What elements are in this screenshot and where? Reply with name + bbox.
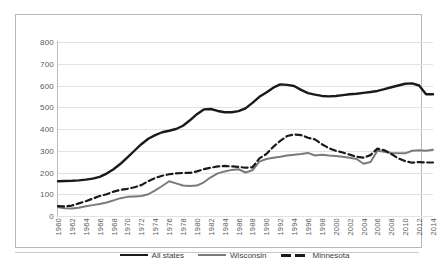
x-tick-label: 2002	[346, 218, 355, 236]
x-tick-label: 2000	[332, 218, 341, 236]
y-tick-label: 800	[40, 38, 54, 47]
x-tick-label: 1992	[276, 218, 285, 236]
x-tick-label: 2006	[373, 218, 382, 236]
y-tick-label: 200	[40, 168, 54, 177]
series-line-minnesota	[58, 134, 433, 206]
x-tick-label: 1978	[179, 218, 188, 236]
x-tick-label: 1988	[248, 218, 257, 236]
solid-gray-line-swatch	[198, 254, 226, 256]
x-tick-label: 1984	[221, 218, 230, 236]
x-tick-label: 1966	[96, 218, 105, 236]
x-tick-label: 2008	[387, 218, 396, 236]
x-tick-label: 1960	[54, 218, 63, 236]
series-line-wisconsin	[58, 150, 433, 209]
y-axis: 0100200300400500600700800	[16, 15, 54, 249]
chart-legend: All statesWisconsinMinnesota	[31, 247, 438, 263]
x-tick-label: 1996	[304, 218, 313, 236]
y-tick-label: 300	[40, 146, 54, 155]
x-tick-label: 1998	[318, 218, 327, 236]
x-tick-label: 1976	[165, 218, 174, 236]
x-tick-label: 1964	[82, 218, 91, 236]
x-tick-label: 2004	[360, 218, 369, 236]
x-tick-label: 2010	[401, 218, 410, 236]
page-divider-rule	[15, 252, 419, 253]
dashed-black-line-swatch	[281, 254, 309, 257]
y-tick-label: 700	[40, 59, 54, 68]
y-tick-label: 600	[40, 81, 54, 90]
x-tick-label: 1974	[151, 218, 160, 236]
gridline	[58, 216, 433, 217]
x-tick-label: 1986	[235, 218, 244, 236]
x-tick-label: 1972	[137, 218, 146, 236]
chart-plot-frame: 0100200300400500600700800 19601962196419…	[15, 14, 422, 248]
y-tick-label: 500	[40, 103, 54, 112]
x-tick-label: 1980	[193, 218, 202, 236]
series-line-all-states	[58, 83, 433, 181]
x-tick-label: 1994	[290, 218, 299, 236]
x-tick-label: 2014	[429, 218, 438, 236]
x-tick-label: 2012	[415, 218, 424, 236]
y-tick-label: 100	[40, 190, 54, 199]
plot-area	[58, 42, 433, 216]
x-tick-label: 1982	[207, 218, 216, 236]
x-tick-label: 1968	[110, 218, 119, 236]
x-tick-label: 1990	[262, 218, 271, 236]
x-tick-label: 1962	[68, 218, 77, 236]
solid-black-line-swatch	[120, 254, 148, 256]
series-lines	[58, 42, 433, 216]
y-tick-label: 400	[40, 125, 54, 134]
x-tick-label: 1970	[123, 218, 132, 236]
